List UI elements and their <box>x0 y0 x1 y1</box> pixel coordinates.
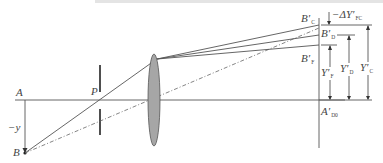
ray-C <box>157 25 319 59</box>
dim-Y-D-top-arrow <box>347 35 351 40</box>
label-delta-Y-FC-main: −ΔY′ <box>332 8 354 20</box>
dash-dot-ray <box>25 28 319 153</box>
label-B-prime-F-sub: F <box>311 59 314 65</box>
label-Y-prime-D: Y′D <box>340 63 354 76</box>
label-Y-prime-C-main: Y′ <box>360 61 369 73</box>
dim-Y-F-top-arrow <box>328 45 332 50</box>
label-B-prime-D-sub: D <box>331 34 335 40</box>
label-B-prime-D: B′D <box>321 28 335 41</box>
label-Y-prime-F-sub: F <box>331 73 334 79</box>
label-Y-prime-F-main: Y′ <box>321 66 330 78</box>
label-B: B <box>13 147 20 158</box>
label-A-prime-D0-main: A′ <box>321 105 330 117</box>
dim-Y-C-bottom-arrow <box>366 96 370 100</box>
dim-Y-C-top-arrow <box>366 25 370 30</box>
label-A-prime-D0: A′D0 <box>321 106 338 119</box>
dim-Y-D-bottom-arrow <box>347 96 351 100</box>
lens <box>148 54 160 146</box>
label-B-prime-C: B′C <box>301 13 315 26</box>
label-B-prime-D-main: B′ <box>321 27 330 39</box>
label-Y-prime-D-sub: D <box>350 69 354 75</box>
label-minus-y: −y <box>8 122 20 133</box>
label-Y-prime-D-main: Y′ <box>340 62 349 74</box>
label-A-prime-D0-sub: D0 <box>331 112 338 118</box>
delta-arrowhead <box>327 21 331 25</box>
chromatic-aberration-diagram <box>0 0 383 163</box>
label-B-prime-F-main: B′ <box>301 52 310 64</box>
label-A: A <box>16 87 23 98</box>
label-P: P <box>91 86 98 97</box>
label-B-prime-C-main: B′ <box>301 12 310 24</box>
label-B-prime-C-sub: C <box>311 19 315 25</box>
label-B-prime-F: B′F <box>301 53 314 66</box>
chief-ray <box>25 61 154 153</box>
label-Y-prime-F: Y′F <box>321 67 334 80</box>
dim-Y-F-bottom-arrow <box>328 96 332 100</box>
label-delta-Y-FC: −ΔY′FC <box>332 9 362 22</box>
label-delta-Y-FC-sub: FC <box>355 15 362 21</box>
label-Y-prime-C-sub: C <box>370 68 374 74</box>
label-Y-prime-C: Y′C <box>360 62 373 75</box>
